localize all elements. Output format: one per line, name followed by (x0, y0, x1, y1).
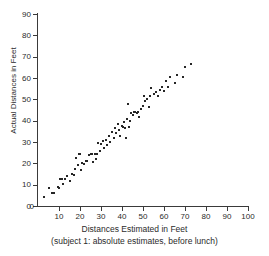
data-point (184, 66, 186, 68)
x-ticklabel-100: 100 (237, 212, 259, 221)
data-point (109, 141, 111, 143)
y-tick-90 (33, 14, 37, 15)
data-point (125, 137, 127, 139)
x-ticklabel-50: 50 (132, 212, 154, 221)
x-axis-title: Distances Estimated in Feet (0, 224, 269, 234)
data-point (91, 153, 93, 155)
data-point (69, 180, 71, 182)
data-point (103, 147, 105, 149)
data-point (43, 196, 45, 198)
data-point (95, 158, 97, 160)
data-point (75, 157, 77, 159)
y-tick-20 (33, 163, 37, 164)
data-point (100, 143, 102, 145)
origin-ticklabel: 0 (20, 202, 34, 211)
x-tick-80 (206, 207, 207, 211)
data-point (143, 95, 145, 97)
data-point (163, 90, 165, 92)
x-ticklabel-10: 10 (48, 212, 70, 221)
data-point (190, 63, 192, 65)
plot-area (38, 14, 248, 206)
data-point (176, 74, 178, 76)
data-point (126, 118, 128, 120)
y-tick-70 (33, 57, 37, 58)
data-point (58, 187, 60, 189)
data-point (64, 178, 66, 180)
data-point (174, 82, 176, 84)
data-point (92, 161, 94, 163)
data-point (62, 183, 64, 185)
data-point (148, 106, 150, 108)
data-point (132, 114, 134, 116)
data-point (117, 123, 119, 125)
data-point (140, 108, 142, 110)
data-point (48, 187, 50, 189)
data-point (77, 164, 79, 166)
data-point (123, 121, 125, 123)
x-ticklabel-70: 70 (174, 212, 196, 221)
y-tick-60 (33, 78, 37, 79)
y-axis-title: Actual Distances in Feet (9, 26, 18, 156)
data-point (99, 150, 101, 152)
y-tick-30 (33, 142, 37, 143)
data-point (142, 105, 144, 107)
x-tick-40 (122, 207, 123, 211)
data-point (167, 86, 169, 88)
x-tick-70 (185, 207, 186, 211)
scatter-plot-figure: 01020304050607080900 1020304050607080901… (0, 0, 269, 256)
data-point (108, 135, 110, 137)
data-point (86, 160, 88, 162)
data-point (124, 127, 126, 129)
data-point (83, 163, 85, 165)
data-point (137, 111, 139, 113)
data-point (128, 126, 130, 128)
x-ticklabel-60: 60 (153, 212, 175, 221)
y-ticklabel-20: 20 (11, 159, 31, 168)
x-tick-10 (59, 207, 60, 211)
data-point (159, 89, 161, 91)
x-axis-subtitle: (subject 1: absolute estimates, before l… (0, 236, 269, 246)
data-point (102, 140, 104, 142)
data-point (66, 175, 68, 177)
data-point (114, 127, 116, 129)
data-point (106, 144, 108, 146)
y-ticklabel-90: 90 (11, 10, 31, 19)
y-tick-80 (33, 35, 37, 36)
data-point (144, 100, 146, 102)
y-tick-10 (33, 185, 37, 186)
data-point (118, 129, 120, 131)
data-point (161, 86, 163, 88)
data-point (153, 93, 155, 95)
data-point (74, 168, 76, 170)
x-tick-20 (80, 207, 81, 211)
data-point (165, 80, 167, 82)
x-ticklabel-90: 90 (216, 212, 238, 221)
data-point (115, 132, 117, 134)
data-point (80, 169, 82, 171)
data-point (96, 153, 98, 155)
data-point (157, 95, 159, 97)
data-point (111, 131, 113, 133)
data-point (129, 120, 131, 122)
data-point (155, 91, 157, 93)
data-point (127, 103, 129, 105)
data-point (105, 139, 107, 141)
data-point (53, 192, 55, 194)
data-point (97, 142, 99, 144)
y-tick-40 (33, 121, 37, 122)
data-point (113, 137, 115, 139)
data-point (61, 178, 63, 180)
data-point (119, 135, 121, 137)
data-point (79, 153, 81, 155)
x-ticklabel-20: 20 (69, 212, 91, 221)
data-point (73, 174, 75, 176)
data-point (138, 116, 140, 118)
x-tick-30 (101, 207, 102, 211)
data-point (182, 76, 184, 78)
data-point (146, 98, 148, 100)
data-point (169, 76, 171, 78)
x-ticklabel-80: 80 (195, 212, 217, 221)
x-ticklabel-30: 30 (90, 212, 112, 221)
x-tick-60 (164, 207, 165, 211)
y-ticklabel-10: 10 (11, 180, 31, 189)
